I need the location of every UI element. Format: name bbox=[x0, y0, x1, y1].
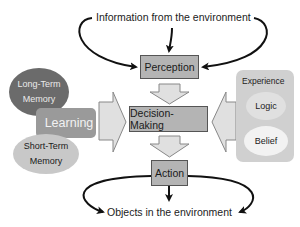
logic-label: Logic bbox=[255, 99, 277, 114]
block-arrow-perception-to-decision bbox=[150, 84, 189, 104]
logic-oval: Logic bbox=[246, 92, 286, 120]
block-arrow-decision-to-action bbox=[150, 136, 189, 157]
decision-making-label: Decision-Making bbox=[130, 107, 207, 131]
short-term-line1: Short-Term bbox=[24, 139, 69, 154]
learning-label: Learning bbox=[45, 116, 94, 130]
experience-title: Experience bbox=[242, 76, 285, 86]
curved-arrow-top-right bbox=[203, 18, 267, 67]
belief-oval: Belief bbox=[244, 126, 288, 156]
belief-label: Belief bbox=[255, 134, 278, 149]
arrow-top-center bbox=[169, 28, 172, 51]
long-term-line2: Memory bbox=[17, 92, 60, 107]
short-term-memory-oval: Short-TermMemory bbox=[13, 134, 79, 174]
block-arrow-right bbox=[212, 92, 236, 152]
block-arrow-left bbox=[99, 92, 126, 152]
bottom-label: Objects in the environment bbox=[107, 206, 232, 218]
short-term-line2: Memory bbox=[24, 154, 69, 169]
action-box: Action bbox=[151, 160, 188, 186]
perception-label: Perception bbox=[144, 61, 194, 73]
perception-box: Perception bbox=[140, 55, 199, 79]
top-label: Information from the environment bbox=[96, 11, 251, 23]
decision-making-box: Decision-Making bbox=[129, 106, 208, 132]
action-label: Action bbox=[155, 167, 184, 179]
curved-arrow-top-left bbox=[79, 18, 136, 67]
long-term-line1: Long-Term bbox=[17, 77, 60, 92]
experience-panel: Experience Logic Belief bbox=[236, 70, 294, 162]
